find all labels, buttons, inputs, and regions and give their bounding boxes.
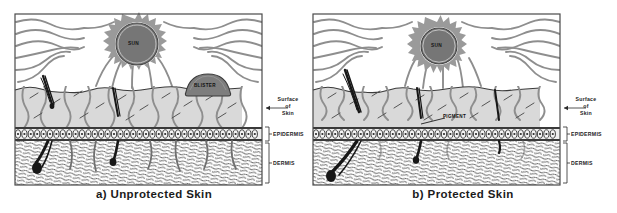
epidermis-cell-band-b <box>313 127 560 141</box>
panel-protected-skin: Surface of Skin EPIDERMIS DERMIS SUN PIG… <box>309 0 617 213</box>
panel-a-caption: a) Unprotected Skin <box>0 188 308 200</box>
pigment-label-b: PIGMENT <box>443 114 466 119</box>
panel-b-illustration <box>309 0 617 213</box>
sun-label-a: SUN <box>128 41 139 46</box>
dermis-layer-a <box>15 141 262 185</box>
panel-a-illustration <box>0 0 308 213</box>
epidermis-cell-band-a <box>15 127 262 141</box>
panel-unprotected-skin: Surface of Skin EPIDERMIS DERMIS SUN BLI… <box>0 0 308 213</box>
figure-root: Surface of Skin EPIDERMIS DERMIS SUN BLI… <box>0 0 617 213</box>
blister-label-a: BLISTER <box>194 83 216 88</box>
dermis-layer-b <box>313 141 560 185</box>
sun-label-b: SUN <box>431 43 442 48</box>
panel-b-caption: b) Protected Skin <box>309 188 617 200</box>
